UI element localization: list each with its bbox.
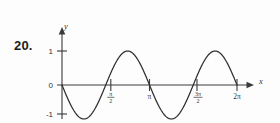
x-tick-label-pi-over-2-denominator: 2 xyxy=(109,98,112,104)
x-axis-arrow-icon xyxy=(247,82,255,89)
y-tick-label-neg1: -1 xyxy=(46,110,54,119)
x-tick-label-pi-over-2-numerator: π xyxy=(109,91,112,97)
y-axis-label: y xyxy=(63,21,68,31)
x-axis-label: x xyxy=(258,76,263,86)
y-tick-label-0: 0 xyxy=(49,81,54,90)
x-tick-label-pi: π xyxy=(148,92,152,101)
x-tick-label-2pi: 2π xyxy=(233,92,241,101)
y-tick-label-1: 1 xyxy=(49,47,54,56)
graph-figure: y x 1 0 -1 π 2 π 3π 2 2π xyxy=(0,0,280,123)
x-tick-label-3pi-over-2-numerator: 3π xyxy=(195,91,201,97)
graph-svg: y x 1 0 -1 π 2 π 3π 2 2π xyxy=(0,0,280,123)
x-tick-label-3pi-over-2-denominator: 2 xyxy=(197,98,200,104)
figure-screenshot: 20. y x 1 0 -1 π 2 π xyxy=(0,0,280,123)
